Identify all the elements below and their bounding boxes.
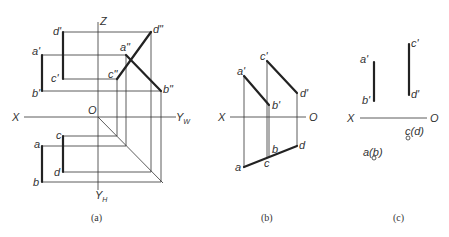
label-a-b: a xyxy=(235,161,241,173)
axis-label-yh: YH xyxy=(95,189,108,203)
label-d: d xyxy=(54,166,61,178)
axis-label-x: X xyxy=(11,111,20,123)
label-b-prime: b' xyxy=(32,87,41,99)
caption-c: (c) xyxy=(393,212,404,224)
label-ab-c: a(b) xyxy=(363,146,383,158)
label-d-prime-b: d' xyxy=(300,87,309,99)
label-d-b: d xyxy=(299,139,306,151)
label-d-dprime: d" xyxy=(153,23,164,35)
label-c-b: c xyxy=(264,157,270,169)
segment-a-dprime-b-dprime xyxy=(126,55,161,91)
segment-ad-b xyxy=(244,146,297,167)
label-a: a xyxy=(34,138,40,150)
label-cd-c: c(d) xyxy=(405,125,424,137)
label-c-prime-b: c' xyxy=(260,50,269,62)
origin-label-c: O xyxy=(430,112,439,124)
label-c-prime: c' xyxy=(51,72,60,84)
label-d-prime: d' xyxy=(53,25,62,37)
label-a-prime-c: a' xyxy=(360,53,369,65)
label-a-dprime: a" xyxy=(120,41,131,53)
axis-label-x-c: X xyxy=(346,112,355,124)
origin-label: O xyxy=(88,104,97,116)
projection-figure: Z X O YW YH d' a' c' b' d" a" c" b" c a … xyxy=(0,0,449,237)
segment-d-dprime-c-dprime xyxy=(117,32,151,79)
label-c-prime-c: c' xyxy=(411,37,420,49)
label-c-dprime: c" xyxy=(108,68,119,80)
label-b-prime-b: b' xyxy=(272,99,281,111)
axis-label-yw: YW xyxy=(176,111,191,125)
axis-label-z: Z xyxy=(99,15,108,27)
label-b-b: b xyxy=(272,143,278,155)
segment-c-prime-d-prime-b xyxy=(267,61,297,93)
panel-a: Z X O YW YH d' a' c' b' d" a" c" b" c a … xyxy=(11,15,191,224)
caption-b: (b) xyxy=(261,212,273,224)
origin-label-b: O xyxy=(309,111,318,123)
label-b-dprime: b" xyxy=(163,83,174,95)
label-a-prime-b: a' xyxy=(237,65,246,77)
panel-b: X O a' b' c' d' a c b d (b) xyxy=(217,50,318,224)
miter-line xyxy=(98,117,163,183)
label-d-prime-c: d' xyxy=(411,88,420,100)
axis-label-x-b: X xyxy=(217,111,226,123)
panel-c: X O a' b' c' d' c(d) a(b) (c) xyxy=(346,37,439,224)
label-a-prime: a' xyxy=(32,45,41,57)
segment-a-prime-b-prime-b xyxy=(244,76,269,105)
label-b-prime-c: b' xyxy=(362,94,371,106)
label-c: c xyxy=(56,129,62,141)
label-b: b xyxy=(33,176,39,188)
caption-a: (a) xyxy=(91,212,102,224)
